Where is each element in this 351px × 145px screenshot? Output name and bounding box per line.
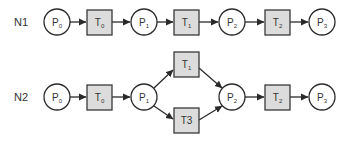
place-p3: P3 [309,9,335,35]
svg-text:T3: T3 [181,115,193,126]
net-label-n1: N1 [14,16,28,28]
transition-t0: T0 [87,85,112,110]
transition-t1: T1 [174,52,199,77]
place-p3: P3 [309,84,335,110]
arc-p1-t1 [154,70,173,88]
arc-p1-t3 [154,106,173,119]
transition-t3: T3 [174,108,199,133]
place-p1: P1 [131,9,157,35]
transition-t1: T1 [174,10,199,35]
arc-t3-p2 [199,106,222,120]
arc-t1-p2 [199,68,222,88]
place-p0: P0 [44,9,70,35]
net-n1: N1 P0 P1 P2 P3 T0 T [14,9,335,35]
petri-net-diagram: N1 P0 P1 P2 P3 T0 T [0,0,351,145]
transition-t0: T0 [87,10,112,35]
place-p0: P0 [44,84,70,110]
transition-t2: T2 [265,10,290,35]
net-n2: N2 P0 P1 P2 P3 T0 [14,52,335,133]
net-label-n2: N2 [14,91,28,103]
place-p1: P1 [131,84,157,110]
transition-t2: T2 [265,85,290,110]
place-p2: P2 [219,9,245,35]
place-p2: P2 [219,84,245,110]
